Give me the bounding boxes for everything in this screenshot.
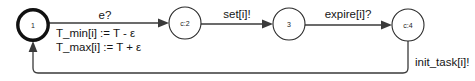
transition-3-to-c4[interactable]: expire[i]? bbox=[305, 8, 392, 29]
state-3-label: 3 bbox=[287, 21, 291, 28]
transition-2-sync-label: set[i]! bbox=[223, 8, 250, 20]
arrow-head-into-c2 bbox=[158, 19, 169, 28]
state-c4-label: c:4 bbox=[403, 22, 412, 29]
transition-c2-to-3[interactable]: set[i]! bbox=[201, 8, 273, 28]
transition-4-sync-label: init_task[i]! bbox=[415, 56, 469, 68]
transition-1-to-c2[interactable]: e? T_min[i] := T - ε T_max[i] := T + ε bbox=[49, 9, 169, 53]
transition-1-sync-label: e? bbox=[99, 9, 112, 21]
automaton-diagram: e? T_min[i] := T - ε T_max[i] := T + ε s… bbox=[0, 0, 475, 81]
state-node-c2[interactable]: c:2 bbox=[169, 7, 201, 39]
state-node-c4[interactable]: c:4 bbox=[392, 9, 424, 41]
state-node-3[interactable]: 3 bbox=[273, 8, 305, 40]
arrow-head-into-1 bbox=[29, 41, 38, 52]
transition-1-assignment-2: T_max[i] := T + ε bbox=[56, 41, 141, 53]
transition-3-sync-label: expire[i]? bbox=[325, 8, 372, 20]
arrow-head-into-c4 bbox=[381, 21, 392, 30]
transition-1-assignment-1: T_min[i] := T - ε bbox=[56, 27, 135, 39]
arrow-head-into-3 bbox=[262, 20, 273, 29]
automaton-canvas: e? T_min[i] := T - ε T_max[i] := T + ε s… bbox=[0, 0, 475, 81]
state-node-1[interactable]: 1 bbox=[18, 10, 48, 40]
state-c2-label: c:2 bbox=[180, 20, 189, 27]
state-1-label: 1 bbox=[31, 22, 35, 29]
